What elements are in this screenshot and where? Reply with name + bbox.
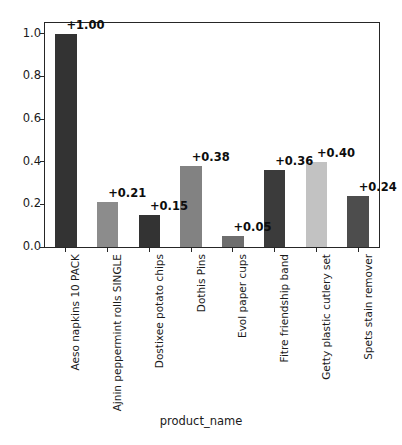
x-axis-category-label: Aeso napkins 10 PACK [70, 254, 81, 370]
bar [306, 162, 328, 247]
bar-value-label: +0.24 [359, 182, 397, 194]
bar [347, 196, 369, 247]
x-axis-tick-mark [274, 248, 275, 252]
bar [264, 170, 286, 247]
x-axis-category-label: Ajnin peppermint rolls SINGLE [112, 254, 123, 411]
x-axis-tick-mark [65, 248, 66, 252]
y-axis-tick-label: 0.2 [5, 199, 41, 211]
bar [97, 202, 119, 247]
bar [139, 215, 161, 247]
x-axis-category-label: Evol paper cups [237, 254, 248, 338]
bar [222, 236, 244, 247]
x-axis-category-label: Spets stain remover [363, 254, 374, 360]
x-axis-tick-mark [149, 248, 150, 252]
bar-value-label: +1.00 [66, 20, 104, 32]
bar-value-label: +0.15 [150, 201, 188, 213]
bar-value-label: +0.36 [275, 156, 313, 168]
x-axis-category-label: Dothis Pins [196, 254, 207, 312]
x-axis-tick-mark [358, 248, 359, 252]
x-axis-title: product_name [0, 414, 402, 428]
y-axis-tick-label: 1.0 [5, 28, 41, 40]
bar-value-label: +0.05 [233, 222, 271, 234]
y-axis-tick-label: 0.6 [5, 113, 41, 125]
y-axis-tick-label: 0.8 [5, 71, 41, 83]
x-axis-tick-mark [107, 248, 108, 252]
x-axis-category-label: Getty plastic cutlery set [321, 254, 332, 380]
bars-container [45, 23, 379, 247]
x-axis-tick-mark [316, 248, 317, 252]
x-axis-category-label: Dostixee potato chips [154, 254, 165, 368]
bar-value-label: +0.40 [317, 148, 355, 160]
bar-value-label: +0.21 [108, 188, 146, 200]
x-axis-tick-mark [191, 248, 192, 252]
y-axis-tick-label: 0.0 [5, 241, 41, 253]
bar-value-label: +0.38 [192, 152, 230, 164]
bar-chart-figure: 0.00.20.40.60.81.0 +1.00+0.21+0.15+0.38+… [0, 0, 402, 445]
x-axis-tick-mark [232, 248, 233, 252]
x-axis-category-label: Fitre friendship band [279, 254, 290, 362]
bar [55, 34, 77, 247]
y-axis-tick-label: 0.4 [5, 156, 41, 168]
